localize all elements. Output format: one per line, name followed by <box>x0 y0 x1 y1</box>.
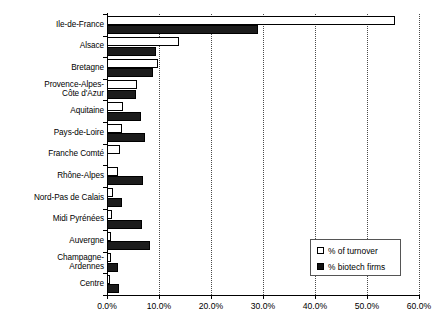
y-axis-tick <box>103 252 107 253</box>
x-axis-tick-label: 50.0% <box>355 301 379 311</box>
bar-turnover <box>107 80 137 89</box>
bar-biotech <box>107 263 118 272</box>
x-axis-tick <box>263 295 264 299</box>
bar-turnover <box>107 210 112 219</box>
bar-turnover <box>107 145 120 154</box>
category-label: Provence-Alpes- Côte d'Azur <box>44 80 104 98</box>
category-label: Rhône-Alpes <box>57 171 104 180</box>
bar-chart: Ile-de-FranceAlsaceBretagneProvence-Alpe… <box>0 0 445 324</box>
x-axis-tick <box>419 295 420 299</box>
bar-biotech <box>107 68 153 77</box>
category-labels: Ile-de-FranceAlsaceBretagneProvence-Alpe… <box>0 0 104 324</box>
x-axis-tick-label: 10.0% <box>147 301 171 311</box>
black-square-icon <box>317 263 324 270</box>
bar-biotech <box>107 90 136 99</box>
bar-biotech <box>107 220 142 229</box>
category-label: Pays-de-Loire <box>54 128 104 137</box>
legend-label-turnover: % of turnover <box>328 246 378 256</box>
category-label: Nord-Pas de Calais <box>34 193 104 202</box>
bar-turnover <box>107 253 111 262</box>
y-axis-tick <box>103 165 107 166</box>
y-axis-tick <box>103 100 107 101</box>
bar-biotech <box>107 47 156 56</box>
x-axis-tick-label: 0.0% <box>97 301 117 311</box>
gridline <box>263 14 264 295</box>
legend-label-biotech: % biotech firms <box>328 262 385 272</box>
x-axis-tick <box>367 295 368 299</box>
category-label: Auvergne <box>69 236 104 245</box>
category-label: Centre <box>80 279 104 288</box>
bar-turnover <box>107 102 123 111</box>
gridline <box>211 14 212 295</box>
category-label: Midi Pyrénées <box>53 214 104 223</box>
x-axis-tick <box>107 295 108 299</box>
bar-turnover <box>107 232 111 241</box>
bar-turnover <box>107 59 158 68</box>
x-axis-tick <box>315 295 316 299</box>
bar-biotech <box>107 241 150 250</box>
bar-biotech <box>107 25 258 34</box>
category-label: Bretagne <box>71 63 104 72</box>
category-label: Champagne- Ardennes <box>57 253 104 271</box>
bar-biotech <box>107 112 141 121</box>
category-label: Ile-de-France <box>56 20 104 29</box>
y-axis-tick <box>103 57 107 58</box>
y-axis-tick <box>103 230 107 231</box>
legend-item-biotech: % biotech firms <box>317 261 385 272</box>
white-square-icon <box>317 247 324 254</box>
bar-turnover <box>107 37 179 46</box>
x-axis-tick-label: 30.0% <box>251 301 275 311</box>
x-axis-tick-label: 40.0% <box>303 301 327 311</box>
y-axis-tick <box>103 79 107 80</box>
bar-biotech <box>107 284 119 293</box>
bar-biotech <box>107 133 145 142</box>
x-axis-tick <box>211 295 212 299</box>
y-axis-tick <box>103 273 107 274</box>
bar-turnover <box>107 167 118 176</box>
gridline <box>419 14 420 295</box>
y-axis-tick <box>103 209 107 210</box>
bar-biotech <box>107 176 143 185</box>
gridline <box>159 14 160 295</box>
legend-item-turnover: % of turnover <box>317 245 378 256</box>
bar-turnover <box>107 275 110 284</box>
y-axis-tick <box>103 144 107 145</box>
chart-legend: % of turnover % biotech firms <box>310 239 401 276</box>
y-axis-tick <box>103 187 107 188</box>
y-axis-tick <box>103 122 107 123</box>
x-axis-tick-label: 60.0% <box>407 301 431 311</box>
category-label: Aquitaine <box>70 106 104 115</box>
category-label: Alsace <box>80 41 104 50</box>
y-axis-tick <box>103 14 107 15</box>
bar-turnover <box>107 16 395 25</box>
x-axis-tick <box>159 295 160 299</box>
x-axis-tick-label: 20.0% <box>199 301 223 311</box>
bar-turnover <box>107 124 122 133</box>
bar-turnover <box>107 188 113 197</box>
bar-biotech <box>107 198 122 207</box>
category-label: Franche Comté <box>48 149 104 158</box>
y-axis-tick <box>103 36 107 37</box>
